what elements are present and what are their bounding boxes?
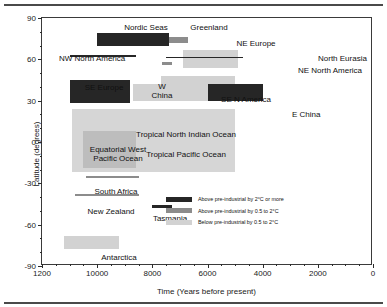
x-axis-tick-minor (139, 264, 140, 266)
legend-swatch (166, 208, 192, 213)
bar-south-africa (86, 176, 138, 178)
x-axis-tick-minor (166, 264, 167, 266)
x-axis-tick-minor (111, 264, 112, 266)
x-axis-tick-minor (249, 264, 250, 266)
y-axis-tick-label: 60 (27, 55, 36, 64)
legend-label: Below pre-industrial by 0.5 to 2°C (198, 219, 278, 225)
y-axis-tick-major (38, 225, 42, 226)
y-axis-tick-minor (40, 32, 42, 33)
x-axis-tick-major (263, 264, 264, 268)
x-axis-tick-minor (180, 264, 181, 266)
label-w-china-2: China (152, 92, 173, 101)
bar-ne-europe (183, 50, 238, 68)
y-axis-tick-minor (40, 197, 42, 198)
x-axis-tick-minor (194, 264, 195, 266)
x-axis-tick-minor (221, 264, 222, 266)
label-south-africa: South Africa (94, 188, 137, 197)
bar-antarctica (64, 236, 119, 250)
label-antarctica: Antarctica (101, 254, 137, 263)
y-axis-tick-label: -60 (24, 220, 36, 229)
x-axis-tick-label: 6000 (199, 269, 217, 278)
label-tropical-n-indian: Tropical North Indian Ocean (136, 131, 236, 140)
x-axis-tick-label: 4000 (254, 269, 272, 278)
x-axis-tick-major (97, 264, 98, 268)
label-se-europe: SE Europe (85, 84, 124, 93)
legend-row: Above pre-industrial by 2°C or more (166, 196, 316, 202)
label-e-china: E China (292, 111, 320, 120)
x-axis-tick-minor (359, 264, 360, 266)
y-axis-tick-minor (40, 156, 42, 157)
x-axis-tick-minor (290, 264, 291, 266)
y-axis-tick-label: -30 (24, 179, 36, 188)
y-axis-tick-minor (40, 238, 42, 239)
label-greenland: Greenland (190, 24, 227, 33)
y-axis-tick-minor (40, 46, 42, 47)
x-axis-tick-label: 1200 (33, 269, 51, 278)
chart-legend: Above pre-industrial by 2°C or moreAbove… (166, 196, 316, 231)
bar-ne-north-america (162, 62, 172, 65)
y-axis-tick-minor (40, 73, 42, 74)
legend-row: Below pre-industrial by 0.5 to 2°C (166, 219, 316, 225)
y-axis-tick-major (38, 18, 42, 19)
label-tropical-pacific: Tropical Pacific Ocean (146, 151, 226, 160)
y-axis-tick-minor (40, 170, 42, 171)
legend-row: Above pre-industrial by 0.5 to 2°C (166, 208, 316, 214)
y-axis-tick-label: 90 (27, 14, 36, 23)
y-axis-tick-minor (40, 252, 42, 253)
bar-north-eurasia (166, 57, 243, 59)
x-axis-tick-label: 2000 (309, 269, 327, 278)
x-axis-tick-major (373, 264, 374, 268)
label-eq-west-pacific-2: Pacific Ocean (93, 155, 142, 164)
x-axis-tick-major (152, 264, 153, 268)
legend-swatch (166, 220, 192, 225)
x-axis-tick-major (318, 264, 319, 268)
x-axis-tick-label: 10000 (86, 269, 108, 278)
top-divider-rule (4, 4, 383, 6)
label-se-n-america: SE N America (221, 96, 271, 105)
x-axis-tick-minor (304, 264, 305, 266)
x-axis-tick-minor (70, 264, 71, 266)
x-axis-tick-minor (125, 264, 126, 266)
label-ne-north-america: NE North America (298, 67, 362, 76)
legend-label: Above pre-industrial by 0.5 to 2°C (198, 208, 279, 214)
y-axis-tick-minor (40, 114, 42, 115)
label-north-eurasia: North Eurasia (318, 55, 367, 64)
x-axis-tick-major (208, 264, 209, 268)
label-new-zealand: New Zealand (87, 208, 134, 217)
legend-swatch (166, 197, 192, 202)
label-ne-europe: NE Europe (236, 40, 275, 49)
label-nw-north-america: NW North America (59, 55, 125, 64)
y-axis-tick-major (38, 142, 42, 143)
x-axis-tick-label: 0 (371, 269, 375, 278)
y-axis-title: Latitude (degrees) (32, 121, 41, 186)
y-axis-tick-major (38, 59, 42, 60)
x-axis-tick-minor (345, 264, 346, 266)
x-axis-title: Time (Years before present) (41, 287, 372, 296)
x-axis-tick-minor (83, 264, 84, 266)
y-axis-tick-label: 30 (27, 96, 36, 105)
y-axis-tick-minor (40, 87, 42, 88)
x-axis-tick-minor (56, 264, 57, 266)
label-nordic-seas: Nordic Seas (124, 24, 168, 33)
x-axis-tick-minor (235, 264, 236, 266)
legend-label: Above pre-industrial by 2°C or more (198, 196, 284, 202)
y-axis-tick-minor (40, 128, 42, 129)
x-axis-tick-minor (332, 264, 333, 266)
x-axis-tick-label: 8000 (143, 269, 161, 278)
x-axis-tick-minor (276, 264, 277, 266)
y-axis-tick-label: 0 (32, 138, 36, 147)
bottom-divider-rule (4, 302, 383, 304)
y-axis-tick-major (38, 101, 42, 102)
bar-nordic-seas (97, 33, 169, 45)
x-axis-tick-major (42, 264, 43, 268)
y-axis-tick-minor (40, 211, 42, 212)
y-axis-tick-major (38, 183, 42, 184)
